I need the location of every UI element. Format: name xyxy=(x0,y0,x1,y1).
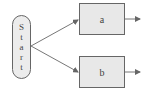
edge-start-to-b xyxy=(31,46,78,72)
edge-start-to-a xyxy=(31,20,78,46)
start-letter: S xyxy=(19,22,24,32)
start-letter: t xyxy=(20,62,23,72)
node-b: b xyxy=(79,56,125,88)
node-b-label: b xyxy=(100,67,105,78)
start-letter: t xyxy=(20,32,23,42)
node-a-label: a xyxy=(100,14,104,25)
node-a: a xyxy=(79,3,125,35)
start-letter: a xyxy=(20,42,24,52)
start-letter: r xyxy=(20,52,23,62)
start-node: S t a r t xyxy=(12,15,31,79)
